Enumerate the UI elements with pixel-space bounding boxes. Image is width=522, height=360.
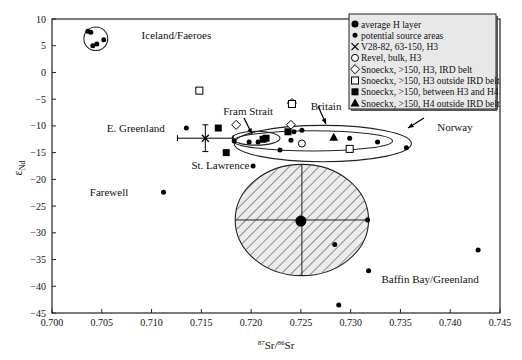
legend-label: Snoeckx, >150, H3 outside IRD belt bbox=[361, 76, 500, 86]
point-dot bbox=[101, 37, 106, 42]
point-dot bbox=[88, 30, 93, 35]
point-dot bbox=[291, 129, 296, 134]
point-open-circle bbox=[298, 140, 305, 147]
x-tick-label: 0.730 bbox=[339, 317, 362, 328]
legend-marker-open-circle bbox=[352, 54, 359, 61]
legend-label: Revel, bulk, H3 bbox=[361, 53, 421, 63]
y-tick-label: 10 bbox=[36, 14, 46, 25]
y-tick-label: −40 bbox=[30, 281, 46, 292]
point-dot bbox=[251, 164, 256, 169]
annotation-st-lawrence: St. Lawrence bbox=[191, 159, 249, 171]
point-dot bbox=[299, 128, 304, 133]
annotation-iceland-faeroes: Iceland/Faeroes bbox=[142, 29, 212, 41]
x-tick-label: 0.745 bbox=[489, 317, 512, 328]
point-dot bbox=[184, 126, 189, 131]
y-tick-label: 5 bbox=[41, 40, 46, 51]
x-tick-label: 0.705 bbox=[91, 317, 114, 328]
legend-label: V28-82, 63-150, H3 bbox=[361, 42, 438, 52]
x-tick-label: 0.715 bbox=[190, 317, 213, 328]
y-tick-label: −30 bbox=[30, 227, 46, 238]
point-dot bbox=[232, 138, 237, 143]
x-ticks: 0.7000.7050.7100.7150.7200.7250.7300.735… bbox=[41, 309, 512, 328]
annotation-norway: Norway bbox=[437, 121, 473, 133]
point-dot bbox=[476, 247, 481, 252]
annotation-fram-strait: Fram Strait bbox=[223, 105, 273, 117]
point-open-diamond bbox=[286, 120, 295, 129]
point-filled-square bbox=[223, 149, 230, 156]
point-dot bbox=[347, 136, 352, 141]
point-dot bbox=[404, 145, 409, 150]
y-axis-label: εNd bbox=[11, 161, 27, 176]
legend-marker-big-dot bbox=[352, 21, 359, 28]
x-tick-label: 0.725 bbox=[290, 317, 313, 328]
point-dot bbox=[247, 139, 252, 144]
legend-label: potential source areas bbox=[361, 31, 444, 41]
annotation-e-greenland: E. Greenland bbox=[107, 122, 166, 134]
y-tick-label: −45 bbox=[30, 308, 46, 319]
y-tick-label: 0 bbox=[41, 67, 46, 78]
point-dot bbox=[161, 190, 166, 195]
legend-marker-filled-square bbox=[352, 88, 359, 95]
y-tick-label: −35 bbox=[30, 254, 46, 265]
legend-marker-open-square bbox=[352, 77, 359, 84]
annotation-britain: Britain bbox=[311, 100, 342, 112]
scatter-chart: 0.7000.7050.7100.7150.7200.7250.7300.735… bbox=[0, 0, 522, 360]
point-dot bbox=[94, 42, 99, 47]
legend-label: Snoeckx, >150, H3, IRD belt bbox=[361, 65, 473, 75]
point-dot bbox=[365, 217, 370, 222]
point-filled-triangle bbox=[329, 133, 338, 141]
y-tick-label: −15 bbox=[30, 147, 46, 158]
point-open-square bbox=[196, 87, 203, 94]
x-tick-label: 0.710 bbox=[140, 317, 163, 328]
legend-label: average H layer bbox=[361, 20, 422, 30]
legend-marker-dot bbox=[353, 33, 358, 38]
legend-label: Snoeckx, >150, between H3 and H4 bbox=[361, 87, 499, 97]
point-filled-square bbox=[284, 128, 291, 135]
x-tick-label: 0.700 bbox=[41, 317, 64, 328]
point-open-square bbox=[288, 100, 295, 107]
point-dot bbox=[332, 242, 337, 247]
x-axis-label: 87Sr/86Sr bbox=[258, 339, 295, 351]
point-dot bbox=[336, 302, 341, 307]
legend-label: Snoeckx, >150, H4 outside IRD belt bbox=[361, 99, 500, 109]
y-tick-label: −25 bbox=[30, 201, 46, 212]
x-tick-label: 0.735 bbox=[389, 317, 412, 328]
y-tick-label: −20 bbox=[30, 174, 46, 185]
point-open-square bbox=[346, 145, 353, 152]
y-tick-label: −5 bbox=[35, 94, 46, 105]
point-filled-square bbox=[263, 135, 270, 142]
x-tick-label: 0.740 bbox=[439, 317, 462, 328]
legend: average H layerpotential source areasV28… bbox=[349, 14, 500, 110]
point-open-diamond bbox=[232, 120, 241, 129]
point-filled-square bbox=[215, 125, 222, 132]
annotation-baffin-bay-greenland: Baffin Bay/Greenland bbox=[382, 273, 480, 285]
point-big-dot bbox=[295, 216, 306, 227]
x-tick-label: 0.720 bbox=[240, 317, 263, 328]
point-dot bbox=[277, 147, 282, 152]
y-tick-label: −10 bbox=[30, 120, 46, 131]
point-dot bbox=[366, 268, 371, 273]
annotation-farewell: Farewell bbox=[90, 186, 128, 198]
point-dot bbox=[288, 138, 293, 143]
point-dot bbox=[375, 139, 380, 144]
